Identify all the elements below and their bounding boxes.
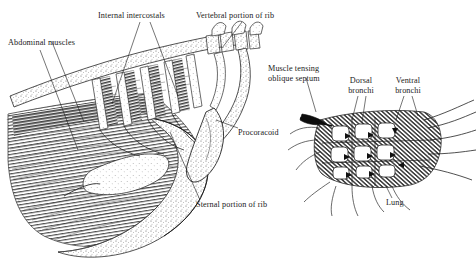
label-vertebral-portion-of-rib: Vertebral portion of rib (196, 11, 274, 21)
label-dorsal-bronchi-line1: Dorsal (344, 76, 378, 86)
label-muscle-tensing-oblique-septum-line2: oblique septum (268, 74, 320, 84)
label-sternal-portion-of-rib: Sternal portion of rib (196, 200, 267, 210)
label-muscle-tensing-oblique-septum-line1: Muscle tensing (268, 64, 319, 74)
label-dorsal-bronchi-line2: bronchi (344, 86, 378, 96)
label-ventral-bronchi-line1: Ventral (390, 76, 426, 86)
label-internal-intercostals: Internal intercostals (98, 11, 165, 21)
label-procoracoid: Procoracoid (238, 128, 279, 138)
label-abdominal-muscles: Abdominal muscles (8, 38, 75, 48)
lung-block (288, 100, 476, 216)
anatomical-figure: Abdominal muscles Internal intercostals … (0, 0, 476, 267)
label-lung: Lung (386, 198, 404, 208)
label-ventral-bronchi-line2: bronchi (390, 86, 426, 96)
